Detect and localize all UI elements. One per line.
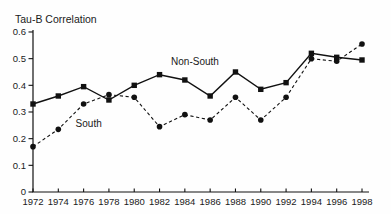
series-south-marker: [30, 144, 36, 150]
series-non-south-marker: [359, 57, 364, 62]
series-south-marker: [258, 117, 264, 123]
x-tick-label: 1980: [124, 196, 145, 207]
series-non-south-marker: [56, 93, 61, 98]
series-south-marker: [359, 41, 365, 47]
series-label-south: South: [76, 118, 102, 129]
x-tick-label: 1984: [174, 196, 195, 207]
series-south-marker: [207, 117, 213, 123]
x-tick-label: 1988: [225, 196, 246, 207]
series-south-marker: [283, 95, 289, 101]
x-tick-label: 1994: [301, 196, 322, 207]
x-tick-label: 1986: [200, 196, 221, 207]
x-tick-label: 1978: [98, 196, 119, 207]
series-non-south-marker: [132, 83, 137, 88]
series-non-south-marker: [81, 84, 86, 89]
series-non-south-marker: [334, 55, 339, 60]
series-non-south-marker: [233, 69, 238, 74]
series-south-marker: [182, 112, 188, 118]
series-non-south-marker: [207, 93, 212, 98]
x-tick-label: 1998: [351, 196, 372, 207]
x-tick-label: 1982: [149, 196, 170, 207]
series-non-south-marker: [309, 51, 314, 56]
y-tick-label: 0.6: [13, 26, 26, 37]
x-tick-label: 1974: [48, 196, 69, 207]
series-non-south-marker: [157, 72, 162, 77]
series-non-south-marker: [106, 97, 111, 102]
chart-canvas: 00.10.20.30.40.50.6197219741976197819801…: [0, 0, 391, 214]
series-label-non-south: Non-South: [171, 56, 219, 67]
series-south-marker: [56, 127, 62, 133]
y-tick-label: 0.2: [13, 133, 26, 144]
y-tick-label: 0.3: [13, 106, 26, 117]
series-non-south-marker: [182, 77, 187, 82]
x-tick-label: 1990: [250, 196, 271, 207]
series-south-marker: [309, 56, 315, 62]
x-tick-label: 1992: [276, 196, 297, 207]
series-south-marker: [106, 92, 112, 98]
x-tick-label: 1996: [326, 196, 347, 207]
y-tick-label: 0.5: [13, 53, 26, 64]
tau-b-correlation-figure: Tau-B Correlation 00.10.20.30.40.50.6197…: [0, 0, 391, 214]
x-tick-label: 1972: [22, 196, 43, 207]
y-tick-label: 0.1: [13, 160, 26, 171]
series-non-south-marker: [283, 80, 288, 85]
x-tick-label: 1976: [73, 196, 94, 207]
series-non-south-marker: [30, 101, 35, 106]
series-south-marker: [131, 95, 137, 101]
series-south-marker: [233, 95, 239, 101]
series-south-marker: [81, 101, 87, 107]
series-south-marker: [157, 124, 163, 130]
series-non-south-marker: [258, 87, 263, 92]
y-tick-label: 0.4: [13, 80, 26, 91]
